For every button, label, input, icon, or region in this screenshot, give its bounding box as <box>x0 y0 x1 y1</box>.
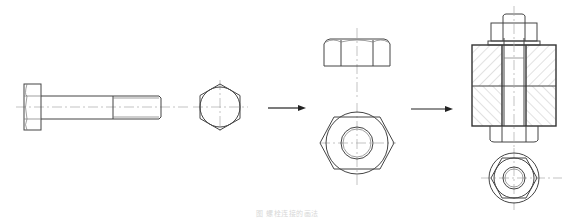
upper-plate-right <box>526 45 556 86</box>
bolt-front-view <box>16 84 190 130</box>
bolt-end-view <box>193 80 248 134</box>
assembly-section-view <box>472 6 556 148</box>
arrow-1 <box>268 105 306 111</box>
arrow-2 <box>411 106 453 112</box>
nut-top-view <box>320 103 396 186</box>
assembly-bottom-view <box>481 148 562 210</box>
upper-plate-left <box>472 45 502 86</box>
lower-plate-right <box>526 86 556 126</box>
bolt-head-chamfer <box>26 84 28 130</box>
bolt-end-chamfer <box>159 96 161 119</box>
nut-front-view <box>324 28 390 100</box>
bolt-connection-diagram <box>0 0 575 220</box>
lower-plate-left <box>472 86 502 126</box>
figure-caption: 图 螺栓连接的画法 <box>0 208 575 218</box>
